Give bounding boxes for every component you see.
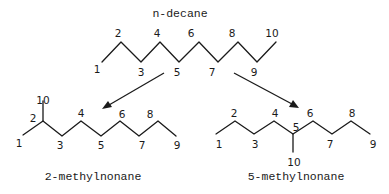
arrowhead-icon (102, 101, 112, 109)
reaction-arrow-left (102, 73, 164, 109)
arrowhead-icon (289, 100, 299, 108)
atom-label-9: 9 (251, 66, 258, 78)
atom-label-10: 10 (287, 156, 300, 168)
atom-label-1: 1 (216, 138, 223, 150)
atom-label-4: 4 (78, 107, 85, 119)
atom-label-7: 7 (139, 139, 146, 151)
atom-label-7: 7 (327, 138, 334, 150)
molecule-title-n-decane: n-decane (152, 7, 207, 20)
atom-label-10: 10 (36, 94, 49, 106)
n-decane-carbon-chain (102, 42, 276, 62)
molecule-2-methylnonane: 1 2 3 4 5 6 7 8 9 10 2-methylnonane (16, 94, 181, 183)
atom-label-1: 1 (94, 63, 101, 75)
isomerization-diagram: n-decane 1 2 3 4 5 6 7 8 9 10 1 2 3 4 5 … (0, 0, 389, 194)
atom-label-6: 6 (119, 108, 126, 120)
atom-label-7: 7 (209, 66, 216, 78)
2-methylnonane-main-chain (23, 121, 176, 136)
atom-label-6: 6 (307, 107, 314, 119)
atom-label-6: 6 (188, 27, 195, 39)
molecule-title-5-methylnonane: 5-methylnonane (248, 170, 345, 183)
atom-label-3: 3 (57, 139, 64, 151)
atom-label-5: 5 (174, 66, 181, 78)
atom-label-5: 5 (98, 139, 105, 151)
atom-label-10: 10 (265, 27, 278, 39)
molecule-5-methylnonane: 1 2 3 4 5 6 7 8 9 10 5-methylnonane (216, 107, 377, 183)
atom-label-9: 9 (370, 138, 377, 150)
atom-label-4: 4 (272, 107, 279, 119)
molecule-title-2-methylnonane: 2-methylnonane (45, 170, 142, 183)
atom-label-4: 4 (154, 27, 161, 39)
atom-label-2: 2 (30, 112, 37, 124)
atom-label-8: 8 (229, 27, 236, 39)
atom-label-3: 3 (138, 66, 145, 78)
atom-label-8: 8 (349, 107, 356, 119)
atom-label-1: 1 (16, 137, 23, 149)
atom-label-3: 3 (252, 138, 259, 150)
atom-label-2: 2 (231, 107, 238, 119)
atom-label-9: 9 (174, 139, 181, 151)
atom-label-2: 2 (115, 27, 122, 39)
molecule-n-decane: n-decane 1 2 3 4 5 6 7 8 9 10 (94, 7, 279, 78)
atom-label-5: 5 (293, 121, 300, 133)
reaction-arrow-right (234, 73, 299, 108)
atom-label-8: 8 (147, 108, 154, 120)
